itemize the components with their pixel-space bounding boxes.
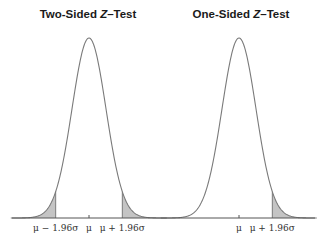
one-sided-curve xyxy=(161,38,317,218)
left-tail-region xyxy=(11,193,56,218)
upper-tail-region xyxy=(272,192,317,218)
two-sided-curve xyxy=(11,38,167,218)
bell-curves xyxy=(11,38,317,218)
label-mu-plus-1.96sigma-left: μ + 1.96σ xyxy=(100,223,145,233)
label-mu-right: μ xyxy=(236,223,242,233)
label-mu-plus-1.96sigma-right: μ + 1.96σ xyxy=(250,223,295,233)
normal-distribution-diagram: μ − 1.96σ μ μ + 1.96σ μ μ + 1.96σ xyxy=(0,0,322,241)
right-tail-region xyxy=(122,192,167,218)
label-mu-minus-1.96sigma: μ − 1.96σ xyxy=(33,223,78,233)
label-mu-left: μ xyxy=(86,223,92,233)
rejection-regions xyxy=(11,192,317,218)
